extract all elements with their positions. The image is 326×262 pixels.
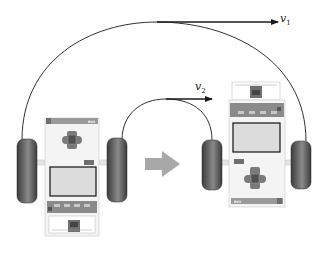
robot-screen xyxy=(50,167,96,196)
inner-trajectory-arc xyxy=(122,99,212,140)
inner-velocity-label: v2 xyxy=(195,80,206,95)
brick-label: EV3 xyxy=(234,200,241,204)
wheel-left-end xyxy=(202,140,222,190)
robot-screen xyxy=(233,123,280,152)
wheel-right-end xyxy=(291,141,311,189)
wheel-right-start xyxy=(107,138,127,202)
robot-start: EV3 xyxy=(36,118,108,236)
outer-velocity-label: v1 xyxy=(280,12,291,27)
diagram-canvas: v1 v2 EV3 xyxy=(0,0,326,262)
robot-end: EV3 xyxy=(220,82,293,207)
brick-label: EV3 xyxy=(88,120,95,124)
wheel-left-start xyxy=(17,139,37,203)
transition-arrow-icon xyxy=(145,151,180,177)
